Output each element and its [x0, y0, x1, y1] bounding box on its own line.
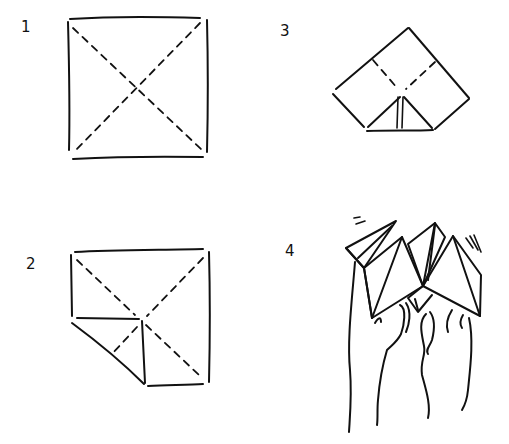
step-4-fortune-teller-on-hands-drawing — [260, 200, 509, 444]
step-3-folded-drawing — [260, 0, 509, 180]
step-2-folded-corner-drawing — [0, 220, 250, 400]
fortune-teller-diagram: 1 3 2 — [0, 0, 509, 444]
step-4-panel: 4 — [260, 200, 509, 444]
step-2-panel: 2 — [0, 220, 250, 400]
step-1-square-drawing — [0, 0, 250, 180]
step-1-panel: 1 — [0, 0, 250, 180]
step-3-panel: 3 — [260, 0, 509, 180]
